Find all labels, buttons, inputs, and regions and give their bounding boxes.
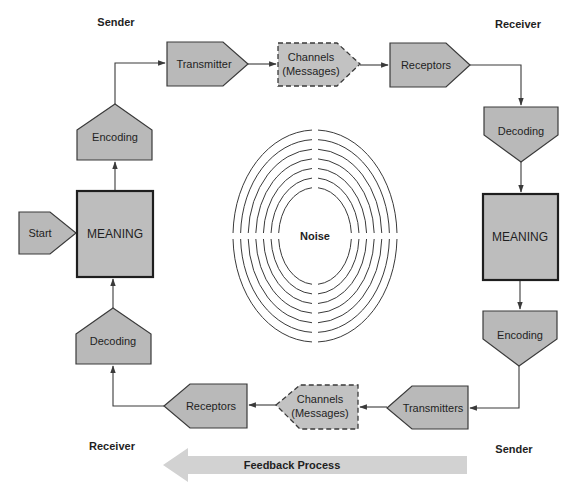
communication-model-diagram: Sender Receiver Receiver Sender Start (0, 0, 572, 489)
noise-ring-arc (241, 140, 312, 233)
receiver-label-top: Receiver (495, 18, 542, 30)
noise-ring-arc (318, 178, 359, 233)
noise-ring-arc (318, 239, 359, 294)
encoding-left-node: Encoding (77, 104, 152, 160)
start-node: Start (19, 212, 76, 254)
receptors-bottom-node: Receptors (164, 384, 247, 428)
noise-ring-arc (318, 169, 367, 233)
noise-ring-arc (271, 239, 312, 294)
meaning-right-node: MEANING (483, 194, 558, 280)
decoding-left-label: Decoding (90, 335, 136, 347)
receiver-label-bottom: Receiver (89, 440, 136, 452)
channels-top-node: Channels (Messages) (278, 43, 360, 86)
channels-top-label-1: Channels (288, 51, 335, 63)
feedback-arrow: Feedback Process (163, 448, 467, 482)
noise-ring-arc (271, 178, 312, 233)
decoding-left-node: Decoding (76, 308, 151, 364)
transmitter-top-label: Transmitter (176, 58, 232, 70)
noise-ring-arc (241, 239, 312, 332)
decoding-right-label: Decoding (498, 125, 544, 137)
noise-ring-arc (318, 140, 389, 233)
encoding-right-node: Encoding (483, 311, 557, 366)
sender-label-bottom: Sender (495, 443, 533, 455)
meaning-left-label: MEANING (87, 227, 143, 241)
decoding-right-node: Decoding (484, 107, 558, 162)
noise-ring-arc (318, 239, 367, 303)
receptors-top-label: Receptors (401, 59, 452, 71)
transmitter-top-node: Transmitter (167, 42, 248, 86)
channels-bottom-node: Channels (Messages) (276, 385, 358, 429)
noise-ring-arc (318, 239, 389, 332)
encoding-right-label: Encoding (497, 329, 543, 341)
transmitters-bottom-node: Transmitters (387, 386, 468, 429)
meaning-left-node: MEANING (77, 191, 153, 277)
transmitters-bottom-label: Transmitters (403, 402, 464, 414)
sender-label-top: Sender (97, 16, 135, 28)
encoding-left-label: Encoding (92, 131, 138, 143)
start-label: Start (28, 227, 51, 239)
noise-ring-arc (263, 169, 312, 233)
receptors-top-node: Receptors (390, 43, 470, 87)
channels-top-label-2: (Messages) (282, 65, 339, 77)
feedback-label: Feedback Process (244, 459, 341, 471)
channels-bottom-label-2: (Messages) (291, 407, 348, 419)
meaning-right-label: MEANING (492, 230, 548, 244)
noise-label: Noise (300, 230, 330, 242)
noise-ring-arc (263, 239, 312, 303)
receptors-bottom-label: Receptors (186, 400, 237, 412)
channels-bottom-label-1: Channels (297, 393, 344, 405)
